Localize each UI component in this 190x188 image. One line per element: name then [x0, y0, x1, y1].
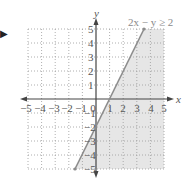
- svg-text:1: 1: [88, 79, 94, 91]
- svg-text:4: 4: [88, 37, 94, 49]
- svg-text:2: 2: [88, 65, 94, 77]
- x-axis-arrow-left-icon: [20, 97, 27, 102]
- x-axis-label: x: [175, 93, 181, 105]
- svg-text:−2: −2: [61, 102, 73, 114]
- svg-text:1: 1: [107, 102, 113, 114]
- svg-text:−4: −4: [34, 102, 46, 114]
- inequality-label: 2x − y ≥ 2: [128, 16, 173, 28]
- svg-text:−3: −3: [48, 102, 60, 114]
- bullet-arrow-icon: ▶: [0, 28, 8, 39]
- svg-text:3: 3: [88, 51, 94, 63]
- svg-text:5: 5: [161, 102, 167, 114]
- svg-text:−1: −1: [84, 107, 96, 119]
- y-axis-label: y: [93, 7, 99, 19]
- svg-text:−5: −5: [20, 102, 32, 114]
- svg-text:−4: −4: [84, 149, 96, 161]
- svg-text:−2: −2: [84, 121, 96, 133]
- svg-text:4: 4: [148, 102, 154, 114]
- svg-text:−5: −5: [84, 163, 96, 175]
- y-axis-arrow-up-icon: [94, 18, 99, 25]
- svg-text:5: 5: [88, 23, 94, 35]
- x-axis-arrow-right-icon: [167, 97, 174, 102]
- line-endpoint: [73, 167, 76, 170]
- svg-text:2: 2: [120, 102, 126, 114]
- inequality-graph: x y −5 −4 −3 −2 −1 0 1 2 3 4 5 5 4 3 2 1…: [0, 0, 190, 188]
- svg-text:−3: −3: [84, 135, 96, 147]
- svg-text:3: 3: [134, 102, 140, 114]
